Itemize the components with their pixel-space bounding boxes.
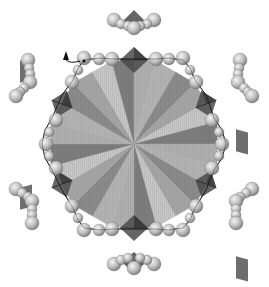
- satellite-cluster-top: [107, 10, 161, 35]
- satellite-cluster-lower-right: [229, 182, 259, 281]
- structure-figure: [0, 0, 269, 287]
- satellite-cluster-bottom: [107, 252, 161, 275]
- satellite-cluster-lower-left: [9, 182, 39, 230]
- molecular-diagram: [0, 0, 269, 287]
- satellite-cluster-upper-left: [9, 53, 37, 103]
- satellite-cluster-upper-right: [231, 53, 259, 154]
